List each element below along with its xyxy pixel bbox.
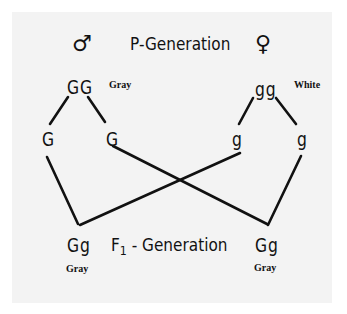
line-g1-to-offspring1	[80, 153, 240, 225]
p-generation-label: P-Generation	[130, 35, 230, 53]
line-g2-to-offspring2	[268, 156, 301, 225]
male-genotype: GG	[67, 78, 93, 97]
f1-label-prefix: F	[111, 234, 120, 255]
offspring-2-genotype: Gg	[255, 236, 279, 255]
offspring-1-genotype: Gg	[67, 236, 91, 255]
line-gg-to-g2	[276, 98, 296, 124]
offspring-1-phenotype: Gray	[66, 264, 88, 274]
line-gg-to-g1	[239, 98, 253, 124]
female-phenotype: White	[294, 80, 320, 90]
line-G1-to-offspring1	[47, 157, 78, 224]
line-GG-to-G2	[88, 97, 105, 122]
male-phenotype: Gray	[109, 80, 131, 90]
male-symbol-icon: ♂	[72, 33, 92, 55]
f1-generation-label: F1 - Generation	[111, 236, 227, 257]
female-symbol-icon: ♀	[255, 33, 271, 55]
offspring-2-phenotype: Gray	[254, 263, 276, 273]
female-genotype: gg	[255, 80, 276, 99]
gamete-G-1: G	[42, 130, 55, 149]
line-G2-to-offspring2	[113, 146, 267, 224]
f1-label-suffix: - Generation	[127, 234, 228, 255]
gamete-g-2: g	[297, 130, 308, 149]
gamete-g-1: g	[232, 130, 243, 149]
line-GG-to-G1	[50, 97, 68, 124]
f1-label-subscript: 1	[120, 243, 127, 258]
gamete-G-2: G	[106, 130, 119, 149]
